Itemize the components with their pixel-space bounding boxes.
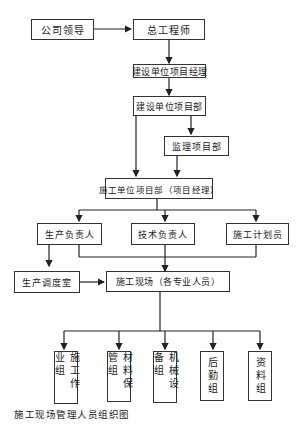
node-dispatch-room: 生产调度室: [14, 271, 80, 293]
diagram-caption: 施工现场管理人员组织图: [14, 407, 130, 421]
node-label: 生产负责人: [45, 228, 95, 241]
node-label: 监理项目部: [172, 140, 222, 153]
node-supervision-dept: 监理项目部: [164, 136, 229, 156]
node-label: 建设单位项目经理: [132, 65, 208, 78]
node-label: 施工作业组: [51, 352, 81, 403]
node-label: 机械设备组: [150, 352, 180, 402]
node-label: 生产调度室: [22, 276, 72, 289]
node-label: 施工计划员: [233, 228, 283, 241]
node-planner: 施工计划员: [226, 223, 289, 245]
node-work-team: 施工作业组: [54, 351, 78, 404]
node-document-team: 资料组: [248, 351, 272, 401]
node-label: 施工单位项目部（项目经理）: [99, 183, 220, 195]
node-material-team: 材料保管组: [107, 351, 131, 402]
node-label: 公司领导: [41, 22, 85, 37]
node-label: 建设单位项目部: [136, 100, 203, 113]
node-technical-head: 技术负责人: [131, 223, 195, 245]
node-logistics-team: 后勤组: [200, 351, 224, 401]
node-owner-dept: 建设单位项目部: [133, 96, 206, 116]
node-label: 技术负责人: [138, 228, 188, 241]
node-label: 总工程师: [147, 22, 191, 37]
node-label: 材料保管组: [104, 352, 134, 401]
node-company-leader: 公司领导: [31, 19, 94, 40]
node-label: 资料组: [253, 357, 268, 396]
node-chief-engineer: 总工程师: [133, 19, 205, 40]
node-owner-pm: 建设单位项目经理: [133, 64, 206, 78]
node-label: 后勤组: [205, 357, 220, 396]
node-site-staff: 施工现场（各专业人员）: [106, 271, 230, 292]
node-production-head: 生产负责人: [37, 223, 102, 245]
node-equipment-team: 机械设备组: [153, 351, 177, 403]
node-contractor-dept: 施工单位项目部（项目经理）: [105, 178, 213, 199]
node-label: 施工现场（各专业人员）: [116, 275, 221, 288]
